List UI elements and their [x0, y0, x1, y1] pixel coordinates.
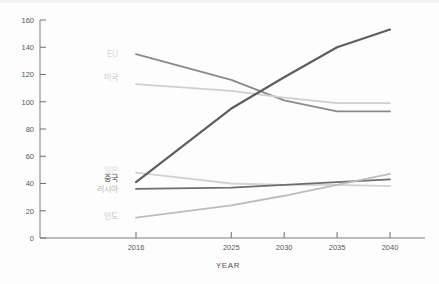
y-tick-label: 20: [26, 207, 34, 216]
y-axis: 020406080100120140160: [21, 16, 46, 243]
y-tick-label: 0: [30, 234, 34, 243]
x-tick-label: 2025: [223, 243, 240, 252]
series-label-인도: 인도: [104, 211, 118, 221]
y-tick-label: 140: [21, 43, 34, 52]
x-tick-label-group: 20162025203020352040: [128, 243, 399, 252]
y-tick-label-group: 020406080100120140160: [21, 16, 34, 243]
y-tick-label: 60: [26, 152, 34, 161]
x-axis: 20162025203020352040: [40, 232, 425, 252]
x-tick-label: 2016: [128, 243, 145, 252]
series-label-EU: EU: [107, 50, 118, 59]
series-group: [136, 30, 390, 218]
y-tick-label: 100: [21, 98, 34, 107]
series-label-미국: 미국: [104, 73, 118, 82]
y-tick-label: 160: [21, 16, 34, 25]
x-tick-label: 2035: [329, 243, 346, 252]
series-line-us: [136, 84, 390, 103]
y-tick-label: 40: [26, 179, 34, 188]
x-tick-label: 2030: [276, 243, 293, 252]
y-tick-label: 120: [21, 70, 34, 79]
series-line-japan: [136, 173, 390, 187]
series-label-러시아: 러시아: [97, 184, 119, 194]
line-chart: 020406080100120140160 201620252030203520…: [0, 0, 439, 284]
inline-label-group: EU미국일본중국러시아인도: [97, 50, 119, 221]
x-tick-group: [136, 232, 390, 238]
x-tick-label: 2040: [382, 243, 399, 252]
chart-svg: 020406080100120140160 201620252030203520…: [0, 0, 439, 284]
chart-frame: 020406080100120140160 201620252030203520…: [0, 0, 439, 284]
y-tick-label: 80: [26, 125, 34, 134]
series-line-china: [136, 30, 390, 183]
x-axis-title: YEAR: [216, 261, 240, 270]
series-label-중국: 중국: [104, 174, 118, 183]
y-tick-group: [40, 20, 46, 238]
